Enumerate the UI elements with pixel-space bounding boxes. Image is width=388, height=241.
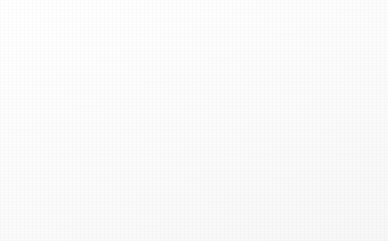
legend-item-label: Self-acceptance: [283, 171, 344, 182]
scan-artifact: [78, 1, 138, 9]
legend-color-swatch-icon: [271, 173, 278, 180]
pie-slice: [119, 15, 223, 119]
pie-chart-svg: 25%41%17%17%: [15, 14, 223, 222]
pie-chart-plot-area: 25%41%17%17%: [15, 14, 223, 222]
legend-item[interactable]: Partial acceptance: [271, 140, 387, 151]
pie-chart-figure: 25%41%17%17% Partial acceptanceFull acce…: [0, 0, 388, 241]
chart-legend: Partial acceptanceFull acceptanceSelf-ac…: [271, 140, 387, 213]
legend-item-label: Partial acceptance: [283, 140, 353, 151]
legend-item[interactable]: Full acceptance: [271, 156, 387, 167]
legend-color-swatch-icon: [271, 142, 278, 149]
pie-slice-value-label: 25%: [148, 74, 166, 84]
legend-item-label: Full acceptance: [283, 156, 342, 167]
pie-slice-value-label: 17%: [80, 62, 98, 72]
legend-item[interactable]: Beyond acceptance (role models): [271, 187, 387, 208]
pie-slice-value-label: 17%: [40, 115, 58, 125]
legend-item-label: Beyond acceptance (role models): [283, 187, 357, 208]
legend-item[interactable]: Self-acceptance: [271, 171, 387, 182]
legend-color-swatch-icon: [271, 189, 278, 196]
pie-slice-value-label: 41%: [124, 162, 142, 172]
legend-color-swatch-icon: [271, 158, 278, 165]
